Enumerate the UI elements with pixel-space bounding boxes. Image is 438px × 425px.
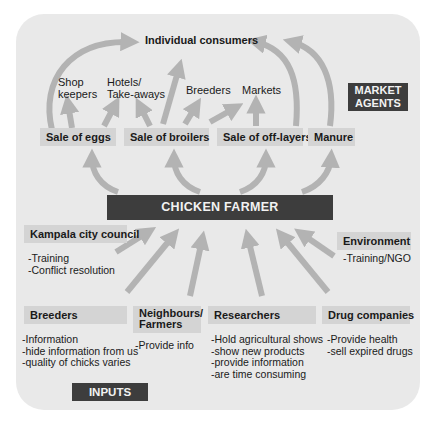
arrow-eggs-to-shopkeepers xyxy=(68,104,72,128)
researchers-item: -provide information xyxy=(211,357,323,369)
breeders-items: -Information -hide information from us -… xyxy=(22,334,138,369)
breeders-item: -quality of chicks varies xyxy=(22,357,138,369)
drug-companies-title: Drug companies xyxy=(322,306,410,324)
shopkeepers-line1: Shop xyxy=(58,76,97,88)
researchers-title: Researchers xyxy=(208,306,316,324)
market-agents-line2: AGENTS xyxy=(348,97,408,110)
drug-companies-item: -sell expired drugs xyxy=(327,346,413,358)
arrow-researchers1-to-farmer xyxy=(248,238,262,296)
kampala-items: -Training -Conflict resolution xyxy=(28,253,115,276)
output-sale-of-broilers: Sale of broilers xyxy=(124,128,209,146)
output-sale-of-eggs: Sale of eggs xyxy=(40,128,116,146)
drug-companies-items: -Provide health -sell expired drugs xyxy=(327,334,413,357)
breeders-input-title: Breeders xyxy=(24,306,127,324)
researchers-item: -Hold agricultural shows xyxy=(211,334,323,346)
kampala-item: -Conflict resolution xyxy=(28,265,115,277)
inputs-badge: INPUTS xyxy=(72,383,148,401)
neighbours-farmers-title: Neighbours/ Farmers xyxy=(133,306,201,333)
kampala-item: -Training xyxy=(28,253,115,265)
neighbours-title-line2: Farmers xyxy=(139,319,195,330)
neighbours-item: -Provide info xyxy=(135,340,194,352)
environment-item: -Training/NGO xyxy=(343,253,411,265)
hotels-line2: Take-aways xyxy=(107,88,165,100)
arrow-breeders-to-farmer xyxy=(127,236,173,292)
hotels-line1: Hotels/ xyxy=(107,76,165,88)
drug-companies-item: -Provide health xyxy=(327,334,413,346)
arrow-farmer-to-offlayers xyxy=(240,158,266,192)
arrow-farmer-to-manure xyxy=(302,158,331,192)
arrow-broilers-to-breeders xyxy=(185,106,196,124)
breeders-market-label: Breeders xyxy=(186,84,231,96)
markets-label: Markets xyxy=(242,84,281,96)
arrow-environment-to-farmer xyxy=(302,234,334,256)
output-sale-of-off-layers: Sale of off-layers xyxy=(217,128,303,146)
chicken-farmer-node: CHICKEN FARMER xyxy=(107,195,333,220)
individual-consumers-label: Individual consumers xyxy=(145,34,258,46)
arrow-neighbours-to-farmer xyxy=(190,240,202,296)
arrow-farmer-to-broilers xyxy=(174,158,200,192)
market-agents-badge: MARKET AGENTS xyxy=(348,83,408,111)
hotels-label: Hotels/ Take-aways xyxy=(107,76,165,100)
neighbours-items: -Provide info xyxy=(135,340,194,352)
kampala-city-council-title: Kampala city council xyxy=(24,225,127,243)
arrow-farmer-to-eggs xyxy=(92,158,118,192)
output-manure: Manure xyxy=(308,128,355,146)
shopkeepers-line2: keepers xyxy=(58,88,97,100)
environment-title: Environment xyxy=(337,232,411,250)
arrow-eggs-to-hotels xyxy=(104,105,115,126)
environment-items: -Training/NGO xyxy=(343,253,411,265)
researchers-item: -are time consuming xyxy=(211,369,323,381)
shopkeepers-label: Shop keepers xyxy=(58,76,97,100)
breeders-item: -Information xyxy=(22,334,138,346)
arrow-broilers-to-markets xyxy=(210,108,235,122)
arrow-broilers-to-hotels xyxy=(140,106,150,126)
market-agents-line1: MARKET xyxy=(348,84,408,97)
arrow-broilers-to-consumers xyxy=(163,68,179,124)
researchers-items: -Hold agricultural shows -show new produ… xyxy=(211,334,323,380)
